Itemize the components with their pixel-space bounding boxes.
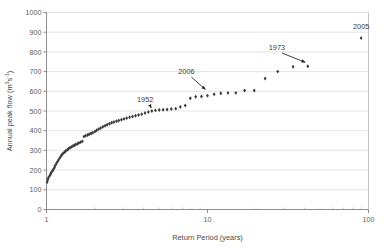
y-tick-label-600: 600: [30, 87, 42, 96]
y-axis-title-text: Annual peak flow (m3s-1): [4, 71, 14, 152]
chart-canvas: 0100200300400500600700800900100011010019…: [0, 0, 384, 250]
y-tick-label-400: 400: [30, 126, 42, 135]
y-tick-label-700: 700: [30, 67, 42, 76]
x-tick-label-1: 1: [45, 215, 49, 224]
x-tick-label-10: 10: [204, 215, 212, 224]
y-tick-label-100: 100: [30, 185, 42, 194]
y-tick-label-300: 300: [30, 146, 42, 155]
y-tick-label-200: 200: [30, 166, 42, 175]
y-tick-label-800: 800: [30, 48, 42, 57]
x-axis-title: Return Period (years): [172, 233, 243, 242]
annotation-label-2006: 2006: [178, 67, 194, 76]
y-tick-label-1000: 1000: [26, 8, 42, 17]
y-axis-title: Annual peak flow (m3s-1): [4, 71, 14, 152]
x-tick-label-100: 100: [363, 215, 375, 224]
annotation-label-1952: 1952: [137, 95, 153, 104]
y-tick-label-0: 0: [38, 205, 42, 214]
y-axis: 01002003004005006007008009001000: [26, 8, 47, 214]
y-tick-label-500: 500: [30, 107, 42, 116]
flood-frequency-chart-figure: 0100200300400500600700800900100011010019…: [0, 0, 384, 250]
annotation-label-2005: 2005: [353, 22, 369, 31]
y-tick-label-900: 900: [30, 28, 42, 37]
annotation-label-1973: 1973: [269, 43, 285, 52]
x-axis: 110100: [45, 210, 375, 224]
